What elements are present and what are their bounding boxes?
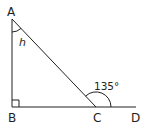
label-b: B	[8, 111, 16, 125]
right-angle-marker	[12, 100, 19, 107]
label-c: C	[93, 111, 101, 125]
triangle-diagram: A B C D h 135°	[0, 0, 148, 128]
angle-label-h: h	[19, 36, 26, 49]
angle-arc-a	[12, 28, 21, 32]
side-ac	[12, 19, 96, 107]
label-d: D	[131, 111, 140, 125]
angle-label-135: 135°	[94, 80, 119, 92]
label-a: A	[7, 5, 16, 19]
